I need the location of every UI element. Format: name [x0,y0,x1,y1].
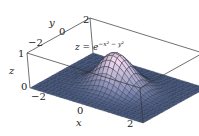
x-tick-2: 2 [127,119,133,129]
z-tick-1: 1 [18,49,24,59]
z-tick-0: 0 [21,82,27,92]
equation-label: z = e−x² − y² [75,39,124,52]
y-tick-neg2: −2 [28,38,43,48]
x-tick-0: 0 [77,106,83,116]
x-tick-neg2: −2 [31,92,46,102]
equation-exponent: −x² − y² [98,40,123,47]
surface-plot [0,0,199,136]
equation-base: z = e [75,42,98,52]
y-tick-0: 0 [59,27,65,37]
y-axis-label: y [49,18,55,28]
y-tick-2: 2 [83,15,89,25]
z-axis-label: z [9,66,14,76]
x-axis-label: x [76,118,82,128]
surface-mesh [30,53,199,123]
